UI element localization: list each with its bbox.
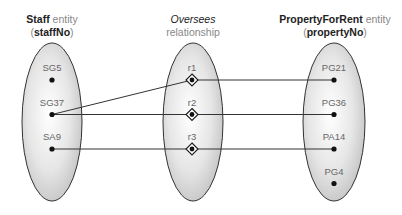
occurrence-label: r2 <box>188 97 196 108</box>
occurrence-label: SG5 <box>42 62 61 73</box>
occurrence-label: PG21 <box>322 62 346 73</box>
dot-icon <box>49 77 54 82</box>
dot-icon <box>190 112 195 117</box>
dot-icon <box>49 146 54 151</box>
dot-icon <box>190 78 195 83</box>
dot-icon <box>49 112 54 117</box>
occurrence-label: PG4 <box>324 166 343 177</box>
dot-icon <box>190 147 195 152</box>
occurrence-label: PG36 <box>322 97 346 108</box>
occurrence-label: r3 <box>188 131 196 142</box>
dot-icon <box>331 181 336 186</box>
semantic-net-diagram: SG5SG37SA9r1r2r3PG21PG36PA14PG4 <box>0 0 402 215</box>
dot-icon <box>331 112 336 117</box>
occurrence-label: r1 <box>188 62 196 73</box>
dot-icon <box>331 77 336 82</box>
dot-icon <box>331 146 336 151</box>
occurrence-label: SG37 <box>40 97 64 108</box>
occurrence-label: PA14 <box>323 131 346 142</box>
occurrence-label: SA9 <box>43 131 61 142</box>
